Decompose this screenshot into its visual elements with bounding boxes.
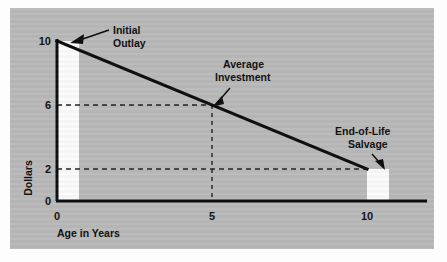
y-axis-title: Dollars: [22, 160, 34, 196]
investment-decline-chart: 10 6 2 0 0 5 10 Dollars Age in Years Ini…: [10, 8, 434, 249]
y-tick-label-0: 0: [45, 195, 51, 207]
annotation-end-of-life-salvage-line1: End-of-Life: [335, 125, 391, 137]
y-tick-label-10: 10: [39, 35, 51, 47]
x-axis-title: Age in Years: [57, 227, 120, 239]
y-tick-label-6: 6: [45, 99, 51, 111]
y-tick-label-2: 2: [45, 163, 51, 175]
bar-initial-outlay: [57, 41, 79, 201]
x-tick-label-0: 0: [54, 210, 60, 222]
x-tick-label-5: 5: [209, 210, 215, 222]
annotation-initial-outlay-line2: Outlay: [113, 37, 146, 49]
x-tick-label-10: 10: [361, 210, 373, 222]
bar-end-of-life-salvage: [367, 169, 389, 201]
annotation-initial-outlay-line1: Initial: [113, 24, 141, 36]
screenshot-root: 10 6 2 0 0 5 10 Dollars Age in Years Ini…: [0, 0, 447, 262]
annotation-initial-outlay-arrowhead: [70, 34, 84, 44]
annotation-average-investment-line1: Average: [223, 58, 264, 70]
annotation-average-investment-line2: Investment: [215, 71, 271, 83]
annotation-end-of-life-salvage-line2: Salvage: [348, 138, 388, 150]
annotation-average-investment-arrowhead: [212, 96, 224, 107]
annotation-end-of-life-salvage-arrowhead: [375, 159, 385, 170]
figure-panel: 10 6 2 0 0 5 10 Dollars Age in Years Ini…: [10, 8, 434, 249]
